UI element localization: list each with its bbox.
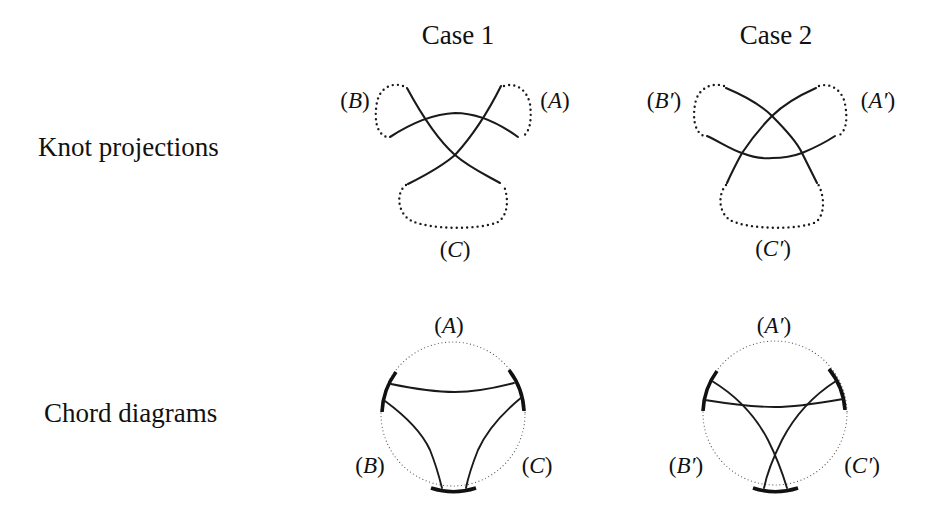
chord-1 (391, 383, 514, 392)
knot-label-C-prime: (C′) (755, 236, 791, 262)
knot-label-C: (C) (440, 237, 471, 263)
arc-B-thick (382, 372, 396, 412)
knot-label-A: (A) (540, 88, 569, 114)
arc-bottom-thick (431, 488, 476, 492)
chord-label-A: (A) (434, 313, 463, 339)
knot-projection-case-2 (694, 85, 846, 228)
strand-3 (707, 136, 835, 158)
knot-label-A-prime: (A′) (861, 88, 895, 114)
strand-3 (408, 86, 501, 184)
knot-label-B-prime: (B′) (647, 88, 681, 114)
loop-B-prime (694, 85, 724, 136)
chord-label-A-prime: (A′) (757, 313, 791, 339)
loop-C-prime (720, 184, 823, 228)
chord-3 (466, 397, 522, 488)
chord-label-B: (B) (355, 453, 384, 479)
chord-label-B-prime: (B′) (669, 453, 703, 479)
arc-C-prime-thick (829, 369, 845, 410)
knot-label-B: (B) (340, 88, 369, 114)
chord-3 (764, 381, 836, 488)
outer-circle (703, 341, 847, 485)
chord-1 (705, 399, 843, 407)
chord-diagram-case-2 (703, 341, 847, 492)
strand-2 (390, 113, 518, 137)
chord-2 (385, 401, 442, 488)
strand-2 (727, 88, 816, 183)
loop-B (376, 85, 403, 137)
loop-A-prime (819, 85, 846, 136)
loop-C (399, 184, 507, 228)
knot-projection-case-1 (376, 85, 531, 228)
arc-C-thick (509, 370, 524, 411)
strand-1 (726, 88, 817, 183)
chord-label-C-prime: (C′) (844, 453, 880, 479)
chord-diagram-case-1 (381, 342, 525, 492)
chord-2 (712, 381, 787, 488)
arc-bottom-thick (753, 488, 798, 492)
strand-1 (407, 88, 500, 183)
chord-label-C: (C) (522, 453, 553, 479)
arc-B-prime-thick (703, 371, 717, 411)
